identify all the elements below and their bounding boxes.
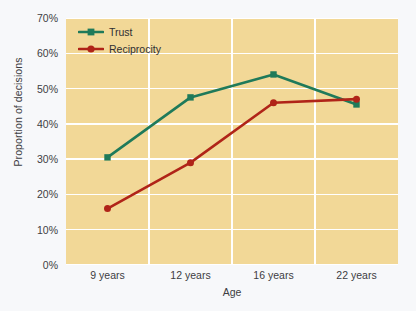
x-tick-label: 22 years: [336, 269, 376, 281]
plot-canvas: [66, 18, 398, 265]
x-tick-label: 12 years: [170, 269, 210, 281]
y-tick-label: 0%: [43, 259, 58, 271]
plot-area: TrustReciprocity: [66, 18, 398, 265]
y-tick-label: 60%: [37, 47, 58, 59]
y-tick-label: 40%: [37, 118, 58, 130]
y-tick-label: 30%: [37, 153, 58, 165]
x-axis-title: Age: [66, 286, 398, 298]
x-tick-label: 9 years: [90, 269, 124, 281]
y-tick-label: 50%: [37, 83, 58, 95]
y-tick-label: 20%: [37, 188, 58, 200]
y-tick-label: 10%: [37, 224, 58, 236]
x-tick-label: 16 years: [253, 269, 293, 281]
y-tick-label: 70%: [37, 12, 58, 24]
line-chart-figure: Proportion of decisions 0%10%20%30%40%50…: [0, 0, 416, 311]
y-axis-tick-labels: 0%10%20%30%40%50%60%70%: [0, 18, 62, 265]
x-axis-tick-labels: 9 years12 years16 years22 years: [66, 269, 398, 285]
vertical-gridlines: [149, 18, 315, 265]
